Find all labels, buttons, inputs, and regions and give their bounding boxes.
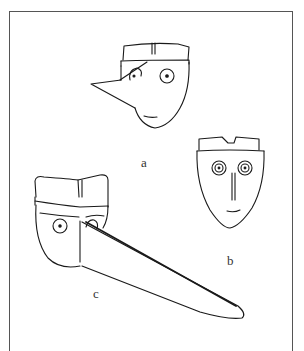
mask-c-drawing bbox=[35, 175, 244, 319]
label-c: c bbox=[93, 287, 99, 300]
label-b: b bbox=[227, 254, 234, 267]
mask-a-drawing bbox=[91, 43, 189, 128]
mask-b-drawing bbox=[197, 137, 264, 228]
label-a: a bbox=[141, 156, 147, 169]
